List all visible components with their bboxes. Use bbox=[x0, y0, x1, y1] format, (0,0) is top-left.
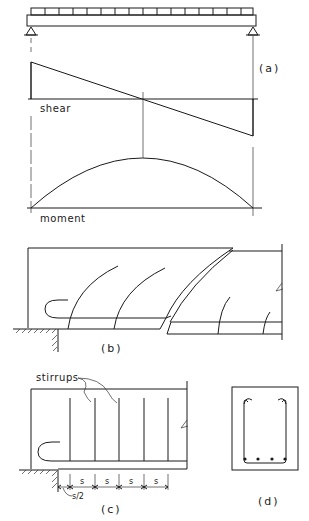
moment-diagram bbox=[27, 158, 262, 208]
panel-d-caption: (d) bbox=[258, 495, 280, 508]
panel-c: stirrups s s s s s/2 (c) bbox=[19, 372, 188, 516]
spacing-label-4: s bbox=[154, 477, 158, 486]
left-support-icon bbox=[24, 27, 38, 35]
distributed-load bbox=[31, 8, 253, 15]
support-hatching bbox=[16, 329, 57, 351]
beam-shear-figure: shear (a) moment bbox=[0, 0, 309, 521]
spacing-label-3: s bbox=[129, 477, 133, 486]
spacing-label-2: s bbox=[105, 477, 109, 486]
shear-label: shear bbox=[40, 103, 71, 114]
end-spacing-label: s/2 bbox=[72, 492, 84, 501]
beam bbox=[27, 15, 256, 26]
spacing-label-1: s bbox=[80, 477, 84, 486]
support-hatching bbox=[22, 470, 57, 488]
stirrup-cross-section bbox=[244, 399, 286, 463]
longitudinal-bars bbox=[243, 457, 286, 460]
panel-b: (b) bbox=[13, 244, 283, 355]
moment-label: moment bbox=[40, 213, 86, 224]
right-support-icon bbox=[246, 27, 260, 35]
panel-a: shear (a) moment bbox=[24, 8, 280, 224]
panel-c-caption: (c) bbox=[101, 503, 122, 516]
panel-b-caption: (b) bbox=[101, 342, 123, 355]
panel-a-caption: (a) bbox=[259, 62, 280, 75]
panel-d: (d) bbox=[232, 387, 298, 508]
stirrups-callout: stirrups bbox=[36, 372, 79, 383]
stirrups bbox=[70, 398, 168, 461]
